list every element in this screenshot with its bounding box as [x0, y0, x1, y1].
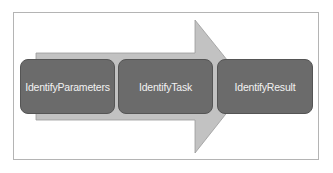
step-identify-parameters: IdentifyParameters [20, 59, 115, 114]
step-label: IdentifyResult [235, 81, 296, 93]
step-label: IdentifyTask [139, 81, 192, 93]
step-identify-result: IdentifyResult [217, 59, 313, 114]
step-label: IdentifyParameters [25, 81, 110, 93]
step-identify-task: IdentifyTask [118, 59, 213, 114]
